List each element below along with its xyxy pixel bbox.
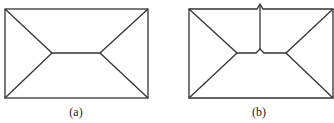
caption-b: (b) [252,105,266,120]
caption-a: (a) [69,105,82,120]
diagram-canvas [0,0,334,123]
outer-rectangle-b [189,4,333,98]
figure-a [5,9,148,98]
figure-b [189,4,333,98]
